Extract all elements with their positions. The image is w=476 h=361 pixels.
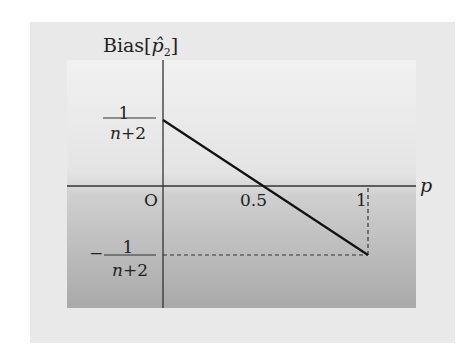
y-tick-bottom-numerator: 1 (123, 237, 134, 257)
y-tick-top-denominator: n+2 (110, 123, 146, 143)
bias-chart: Bias[p̂2] p O 0.5 1 1 n+2 − 1 n+2 (0, 0, 476, 361)
x-tick-1: 1 (356, 190, 367, 210)
origin-label: O (144, 190, 158, 210)
x-tick-0-5: 0.5 (240, 190, 267, 210)
y-tick-bottom-denominator: n+2 (112, 260, 148, 280)
x-axis-label: p (420, 174, 432, 196)
y-tick-bottom-sign: − (89, 243, 103, 263)
y-tick-top-numerator: 1 (119, 103, 130, 123)
y-axis-label: Bias[p̂2] (103, 34, 178, 59)
bias-line (163, 120, 368, 255)
